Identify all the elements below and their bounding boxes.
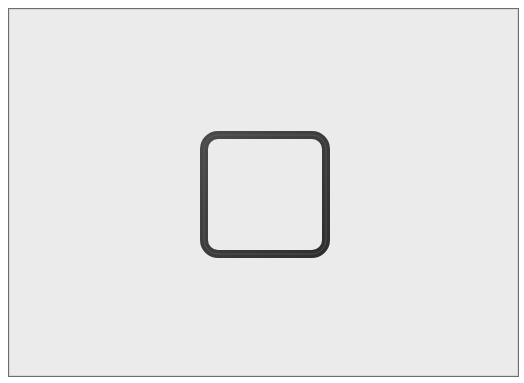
grid-icon[interactable]	[199, 130, 331, 259]
grid-icon-graphic	[199, 130, 331, 259]
